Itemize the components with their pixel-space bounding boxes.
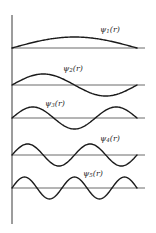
wavefunction-diagram — [0, 0, 156, 233]
psi-1-label: ψ1(r) — [100, 26, 120, 35]
psi-4-label: ψ4(r) — [100, 135, 120, 144]
psi-5-argument: (r) — [93, 169, 103, 178]
psi-1-argument: (r) — [110, 25, 120, 34]
psi-2-argument: (r) — [73, 64, 83, 73]
psi-4-argument: (r) — [110, 134, 120, 143]
psi-3-argument: (r) — [55, 99, 65, 108]
psi-3-label: ψ3(r) — [45, 100, 65, 109]
psi-2-label: ψ2(r) — [63, 65, 83, 74]
wave-psi-1 — [12, 37, 137, 48]
psi-5-label: ψ5(r) — [83, 170, 103, 179]
